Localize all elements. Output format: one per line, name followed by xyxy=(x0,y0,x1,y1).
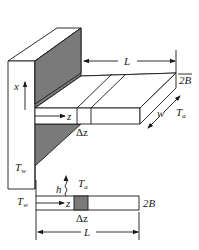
heat-flux-arrowhead xyxy=(64,175,69,181)
side-view: z Tw h Ta Δz 2B L xyxy=(17,175,156,240)
thickness-label: 2B xyxy=(179,74,192,86)
length-label-side: L xyxy=(83,226,90,238)
wall-shaded-face-lower xyxy=(35,124,81,166)
delta-z-label: Δz xyxy=(76,126,88,138)
thickness-label-side: 2B xyxy=(143,197,156,209)
length-label: L xyxy=(123,55,130,67)
slice-shaded xyxy=(74,196,88,210)
x-axis-label: x xyxy=(13,80,19,92)
delta-z-label-side: Δz xyxy=(76,212,88,224)
heat-coeff-label: h xyxy=(56,183,62,195)
z-axis-label: z xyxy=(66,110,72,122)
z-axis-label-side: z xyxy=(65,197,71,209)
width-label: w xyxy=(157,107,165,119)
iso-view: x z Δz L 2B w Ta Tw xyxy=(8,28,192,189)
wall-temp-label-side: Tw xyxy=(17,195,28,209)
fin-diagram: x z Δz L 2B w Ta Tw z Tw xyxy=(0,0,199,250)
ambient-temp-label-side: Ta xyxy=(78,177,88,191)
ambient-temp-label: Ta xyxy=(176,106,186,120)
